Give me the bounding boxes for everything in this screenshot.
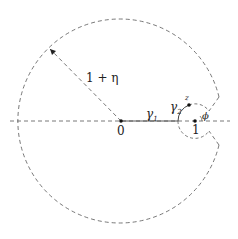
label-gamma2: γ2: [170, 101, 182, 116]
label-phi: ϕ: [202, 111, 209, 121]
gamma2-subscript: 2: [177, 108, 181, 116]
label-radius: 1 + η: [86, 72, 119, 84]
origin-point: [119, 119, 123, 123]
radius-line: [50, 49, 121, 121]
label-z: z: [185, 95, 189, 102]
label-gamma1: γ1: [146, 108, 158, 123]
point-z: [187, 103, 191, 107]
label-one: 1: [192, 124, 200, 136]
notch-line-upper: [209, 97, 219, 111]
gamma1-subscript: 1: [153, 115, 157, 123]
notch-line-lower: [209, 131, 219, 145]
label-origin: 0: [117, 125, 125, 137]
